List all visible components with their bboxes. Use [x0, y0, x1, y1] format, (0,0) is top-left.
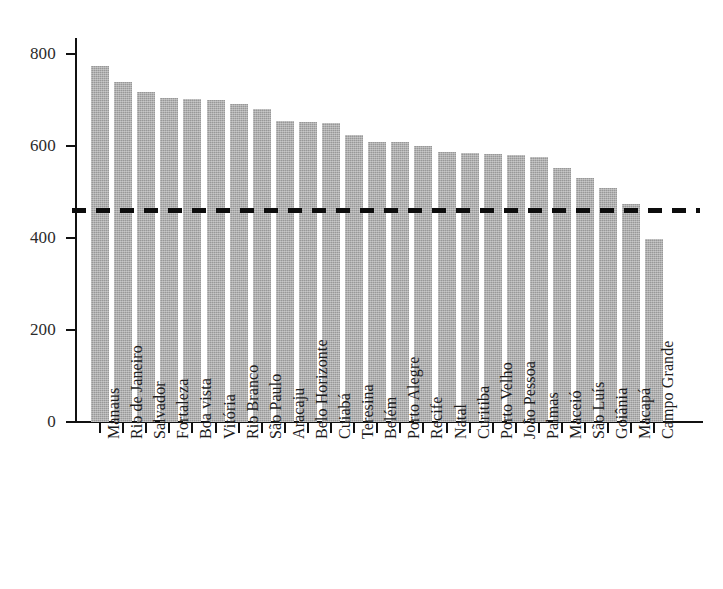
x-axis-label: São Luís — [591, 382, 607, 439]
bars-area — [0, 0, 723, 589]
x-axis-label: Porto Alegre — [406, 356, 422, 439]
x-axis-label: Porto Velho — [499, 362, 515, 439]
x-axis-label: Natal — [453, 404, 469, 439]
x-axis-label: Macapá — [637, 388, 653, 439]
bar[interactable] — [207, 100, 225, 422]
x-axis-label: Belém — [383, 397, 399, 439]
x-axis-label: Rio Branco — [245, 365, 261, 439]
x-axis-label: Aracaju — [291, 388, 307, 439]
x-axis-label: Palmas — [545, 392, 561, 439]
x-axis-label: Cuiabá — [337, 393, 353, 439]
bar[interactable] — [438, 152, 456, 422]
bar[interactable] — [183, 99, 201, 422]
x-axis-label: Maceió — [568, 390, 584, 439]
x-axis-label: Goiânia — [614, 388, 630, 439]
x-axis-label: Vitória — [222, 394, 238, 439]
x-axis-label: Rio de Janeiro — [129, 345, 145, 439]
x-axis-label: João Pessoa — [522, 361, 538, 439]
bar[interactable] — [160, 98, 178, 422]
x-axis-label: Curitiba — [476, 386, 492, 439]
bar[interactable] — [553, 168, 571, 422]
bar[interactable] — [461, 153, 479, 422]
x-axis-label: Belo Horizonte — [314, 339, 330, 439]
reference-line — [72, 208, 700, 213]
x-axis-label: Manaus — [106, 388, 122, 439]
x-axis-label: Recife — [429, 397, 445, 439]
x-axis-label: São Paulo — [268, 374, 284, 439]
bar[interactable] — [345, 135, 363, 423]
bar[interactable] — [368, 142, 386, 422]
x-axis-label: Boa vista — [198, 378, 214, 439]
bar-chart: 0200400600800 ManausRio de JaneiroSalvad… — [0, 0, 723, 589]
bar[interactable] — [91, 66, 109, 423]
x-axis-label: Campo Grande — [660, 340, 676, 439]
x-axis-label: Fortaleza — [175, 379, 191, 439]
x-axis-label: Teresina — [360, 384, 376, 439]
x-axis-label: Salvador — [152, 381, 168, 439]
